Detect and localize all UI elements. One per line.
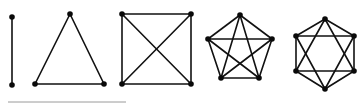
graph-k3 (32, 11, 107, 87)
vertex (101, 81, 107, 87)
edge (221, 39, 272, 78)
edge (208, 15, 240, 39)
graph-k5 (205, 12, 275, 81)
edge (70, 14, 104, 84)
graph-diagram (0, 0, 360, 104)
vertex (188, 81, 194, 87)
graph-k2 (9, 14, 15, 88)
graph-k4 (119, 11, 194, 87)
vertex (256, 75, 262, 81)
vertex (293, 33, 299, 39)
edge (240, 15, 272, 39)
graph-hexagon-star (293, 16, 357, 92)
vertex (205, 36, 211, 42)
vertex (32, 81, 38, 87)
vertex (9, 82, 15, 88)
vertex (9, 14, 15, 20)
vertex (269, 36, 275, 42)
vertex (351, 68, 357, 74)
vertex (119, 81, 125, 87)
vertex (322, 86, 328, 92)
edge (240, 15, 259, 78)
vertex (237, 12, 243, 18)
vertex (351, 33, 357, 39)
graphs-layer (9, 11, 357, 92)
vertex (218, 75, 224, 81)
vertex (188, 11, 194, 17)
edge (208, 39, 259, 78)
vertex (293, 68, 299, 74)
vertex (322, 16, 328, 22)
vertex (67, 11, 73, 17)
edge (221, 15, 240, 78)
edge (35, 14, 70, 84)
vertex (119, 11, 125, 17)
